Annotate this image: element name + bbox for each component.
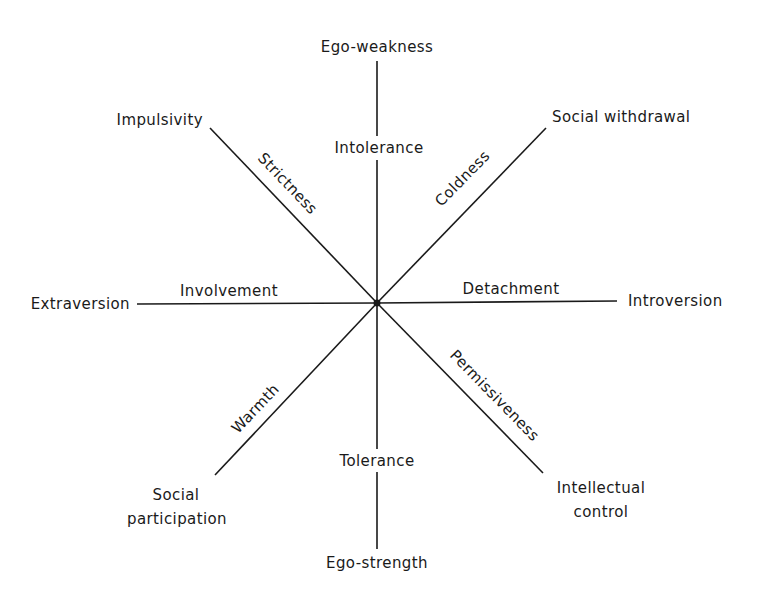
axis-label-up-left: Strictness bbox=[254, 149, 321, 218]
axis-label-left: Involvement bbox=[180, 282, 278, 300]
pole-label-bottom: Ego-strength bbox=[326, 554, 428, 572]
axis-label-down-left: Warmth bbox=[228, 380, 283, 437]
pole-label-bottom-left-line2: participation bbox=[127, 510, 227, 528]
pole-label-bottom-right-line1: Intellectual bbox=[557, 479, 645, 497]
axis-line-down-right bbox=[377, 303, 543, 473]
axis-label-up-right: Coldness bbox=[431, 147, 494, 210]
axis-label-right: Detachment bbox=[463, 280, 560, 298]
pole-label-right: Introversion bbox=[628, 292, 723, 310]
pole-label-left: Extraversion bbox=[31, 295, 130, 313]
center-point bbox=[374, 300, 381, 307]
axis-label-down-right: Permissiveness bbox=[446, 346, 543, 445]
axis-line-right bbox=[377, 301, 617, 303]
pole-label-top: Ego-weakness bbox=[321, 38, 433, 56]
axis-label-up: Intolerance bbox=[334, 139, 423, 157]
pole-label-top-right: Social withdrawal bbox=[552, 108, 690, 126]
pole-label-top-left: Impulsivity bbox=[117, 111, 203, 129]
axis-line-left bbox=[137, 303, 377, 304]
axis-line-down-left bbox=[215, 303, 377, 475]
personality-circumplex-diagram: Ego-weakness Ego-strength Extraversion I… bbox=[0, 0, 757, 590]
axis-label-down: Tolerance bbox=[338, 452, 414, 470]
pole-label-bottom-right-line2: control bbox=[574, 503, 629, 521]
pole-label-bottom-left-line1: Social bbox=[153, 486, 200, 504]
